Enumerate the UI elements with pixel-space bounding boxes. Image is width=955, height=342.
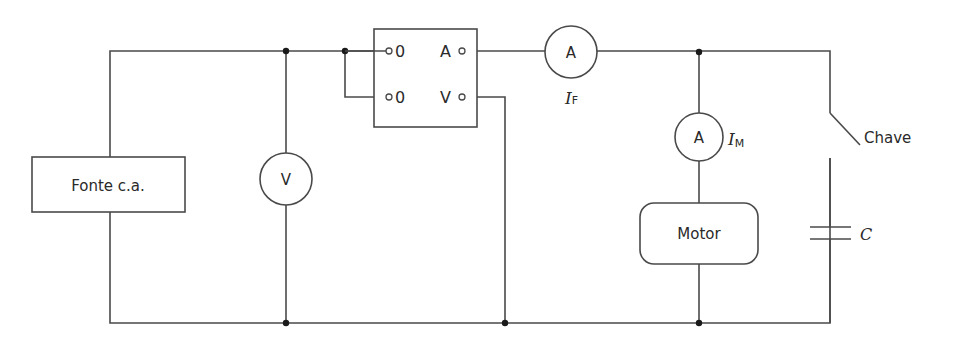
junction-dot [283, 48, 289, 54]
voltmeter-symbol: V [281, 171, 292, 189]
wires [110, 51, 860, 323]
junction-dot [502, 320, 508, 326]
terminal-v [459, 94, 465, 100]
top-wire-left [110, 51, 388, 157]
circuit-diagram: Fonte c.a. V 0 0 A V A IF A IM Motor Cha… [0, 0, 955, 342]
ammeter-feed-symbol: A [566, 44, 577, 62]
terminal-a-label: A [440, 42, 451, 61]
ammeter-motor: A IM [675, 113, 744, 161]
junction-dot [696, 320, 702, 326]
terminal-0-top [386, 48, 392, 54]
motor-label: Motor [677, 225, 721, 243]
ammeter-motor-symbol: A [694, 129, 705, 147]
ac-source-label: Fonte c.a. [71, 177, 145, 195]
top-wire-right [597, 51, 830, 113]
selector-switch: 0 0 A V [345, 29, 477, 127]
voltmeter: V [260, 153, 312, 205]
ac-source: Fonte c.a. [32, 157, 185, 212]
terminal-a [459, 48, 465, 54]
motor: Motor [640, 203, 758, 264]
terminal-v-label: V [440, 88, 451, 107]
selector-switch-box [374, 29, 477, 127]
switch-blade [830, 113, 860, 145]
capacitor: C [810, 225, 872, 244]
ammeter-feed-label: IF [564, 88, 578, 108]
terminal-0-top-label: 0 [395, 42, 405, 61]
junction-dot [696, 49, 702, 55]
terminal-0-bottom [386, 94, 392, 100]
terminal-0-bottom-label: 0 [395, 88, 405, 107]
capacitor-label: C [860, 225, 872, 244]
ammeter-motor-label: IM [727, 129, 744, 150]
switch-label: Chave [864, 129, 911, 147]
ammeter-feed: A IF [545, 26, 597, 108]
v-terminal-wire [464, 97, 505, 323]
junction-dot [283, 320, 289, 326]
